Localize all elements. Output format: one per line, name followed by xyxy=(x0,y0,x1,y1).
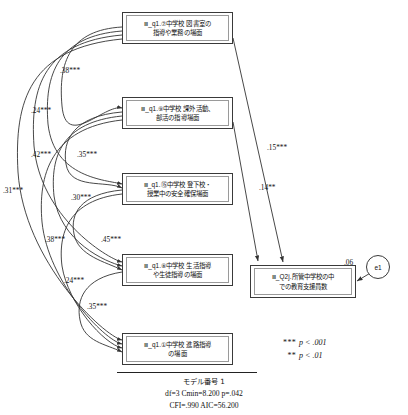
model-fit-block: モデル番号 1 df=3 Cmin=8.200 p=.042 CFI=.990 … xyxy=(0,376,408,412)
node-q1-15[interactable]: Ⅲ_q1.⑮中学校 登下校・ 授業中の安全確保場面 xyxy=(122,173,233,205)
corr-label-q1-8-q1-1: .35*** xyxy=(87,302,107,311)
significance-legend: ***p < .001 **p < .01 xyxy=(281,336,326,362)
node-q1-15-label: Ⅲ_q1.⑮中学校 登下校・ 授業中の安全確保場面 xyxy=(144,180,212,198)
footer-divider xyxy=(117,372,257,373)
node-q1-9[interactable]: Ⅲ_q1.⑨中学校 課外活動、 部活の指導場面 xyxy=(122,97,233,129)
legend-stars-001: *** xyxy=(281,336,296,349)
node-q1-8[interactable]: Ⅲ_q1.⑧中学校 生活指導 や生徒指導の場面 xyxy=(122,254,233,286)
node-q1-7-label: Ⅲ_q1.⑦中学校 図書室の 指導や業務の場面 xyxy=(144,19,211,37)
node-q1-9-label: Ⅲ_q1.⑨中学校 課外活動、 部活の指導場面 xyxy=(141,104,214,122)
node-q1-7[interactable]: Ⅲ_q1.⑦中学校 図書室の 指導や業務の場面 xyxy=(122,12,233,44)
error-term-e1-label: e1 xyxy=(374,264,381,271)
corr-label-q1-9-q1-8: .30*** xyxy=(71,193,91,202)
legend-row-001: ***p < .001 xyxy=(281,336,326,349)
legend-row-01: **p < .01 xyxy=(281,349,326,362)
corr-label-q1-15-q1-1: .24*** xyxy=(64,276,84,285)
node-q1-1[interactable]: Ⅲ_q1.①中学校 進路指導 の場面 xyxy=(122,333,233,365)
corr-label-q1-7-q1-15: .24*** xyxy=(31,106,51,115)
fit-line-1: df=3 Cmin=8.200 p=.042 xyxy=(0,388,408,400)
corr-label-q1-7-q1-8: .42*** xyxy=(31,150,51,159)
fit-line-2: CFI=.990 AIC=56.200 xyxy=(0,400,408,412)
corr-label-q1-7-q1-9: .38*** xyxy=(60,66,80,75)
legend-text-001: p < .001 xyxy=(299,338,326,347)
legend-text-01: p < .01 xyxy=(299,351,322,360)
path-label-q1-9-to-Q2j: .14** xyxy=(259,183,275,192)
path-label-q1-7-to-Q2j: .15*** xyxy=(267,143,287,152)
node-q1-8-label: Ⅲ_q1.⑧中学校 生活指導 や生徒指導の場面 xyxy=(144,261,211,279)
corr-label-q1-9-q1-1: .38*** xyxy=(45,235,65,244)
node-Q2j-label: Ⅲ_Q2j.所管中学校の中 での教育支援員数 xyxy=(272,272,335,290)
legend-stars-01: ** xyxy=(281,349,296,362)
corr-label-q1-7-q1-1: .31*** xyxy=(3,186,23,195)
r-squared-label: .06 xyxy=(344,258,353,267)
sem-path-diagram: Ⅲ_q1.⑦中学校 図書室の 指導や業務の場面 Ⅲ_q1.⑨中学校 課外活動、 … xyxy=(0,0,408,415)
corr-label-q1-15-q1-8: .45*** xyxy=(101,235,121,244)
error-term-e1[interactable]: e1 xyxy=(366,255,390,279)
model-number-label: モデル番号 1 xyxy=(0,376,408,388)
node-q1-1-label: Ⅲ_q1.①中学校 進路指導 の場面 xyxy=(144,340,211,358)
node-Q2j-outcome[interactable]: Ⅲ_Q2j.所管中学校の中 での教育支援員数 xyxy=(250,265,356,298)
corr-label-q1-9-q1-15: .35*** xyxy=(77,150,97,159)
